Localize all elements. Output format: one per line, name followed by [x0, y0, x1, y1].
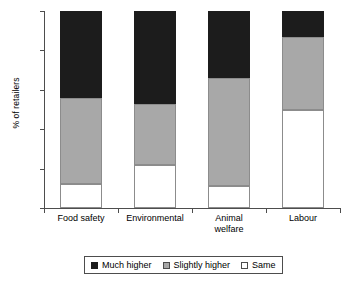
- bar-segment-slightly-higher: [134, 104, 176, 165]
- y-axis-title: % of retailers: [11, 43, 21, 163]
- y-axis-tick: [40, 129, 44, 130]
- bar-segment-much-higher: [282, 11, 324, 37]
- plot-area: 020406080100: [44, 11, 340, 208]
- legend-swatch-same-icon: [241, 262, 248, 269]
- bar-segment-much-higher: [208, 11, 250, 78]
- y-axis-tick: [40, 169, 44, 170]
- bar-environmental: [134, 11, 176, 208]
- x-axis-label-animal-welfare: Animal welfare: [192, 213, 266, 235]
- legend-swatch-slightly-higher-icon: [163, 262, 170, 269]
- bar-segment-same: [208, 186, 250, 208]
- legend-item-slightly-higher: Slightly higher: [163, 260, 231, 270]
- bar-animal-welfare: [208, 11, 250, 208]
- bar-segment-slightly-higher: [60, 98, 102, 185]
- x-axis-label-labour: Labour: [266, 213, 340, 224]
- x-axis-label-environmental: Environmental: [118, 213, 192, 224]
- bar-segment-slightly-higher: [282, 37, 324, 110]
- legend-label: Much higher: [102, 260, 152, 270]
- y-axis-tick: [40, 50, 44, 51]
- legend-label: Slightly higher: [174, 260, 231, 270]
- x-axis-label-food-safety: Food safety: [44, 213, 118, 224]
- bar-segment-same: [134, 165, 176, 208]
- legend-item-much-higher: Much higher: [91, 260, 152, 270]
- x-axis-tick: [340, 208, 341, 213]
- y-axis-tick: [40, 11, 44, 12]
- bar-segment-same: [60, 184, 102, 208]
- bar-segment-slightly-higher: [208, 78, 250, 186]
- bar-segment-same: [282, 110, 324, 209]
- legend-label: Same: [252, 260, 276, 270]
- y-axis-line: [44, 11, 45, 208]
- legend: Much higherSlightly higherSame: [84, 256, 283, 274]
- y-axis-tick: [40, 90, 44, 91]
- bar-labour: [282, 11, 324, 208]
- stacked-bar-chart: % of retailers 020406080100 Food safetyE…: [0, 0, 350, 283]
- legend-item-same: Same: [241, 260, 276, 270]
- bar-segment-much-higher: [134, 11, 176, 104]
- legend-swatch-much-higher-icon: [91, 262, 98, 269]
- bar-food-safety: [60, 11, 102, 208]
- bar-segment-much-higher: [60, 11, 102, 98]
